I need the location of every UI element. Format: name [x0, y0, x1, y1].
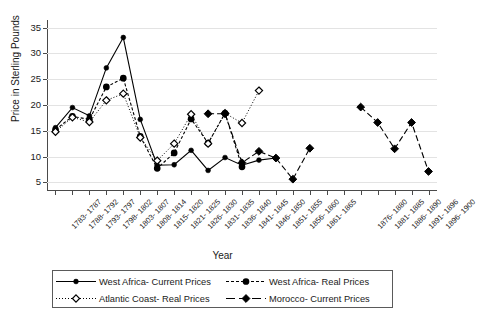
y-tick-labels: 5101520253035	[13, 0, 41, 315]
gridline	[47, 28, 437, 29]
y-tick-mark	[43, 79, 47, 80]
gridline	[47, 157, 437, 158]
x-tick-mark	[106, 191, 107, 195]
legend-item-2[interactable]: West Africa- Real Prices	[223, 273, 393, 290]
x-tick-mark	[259, 191, 260, 195]
legend-item-4[interactable]: Morocco- Current Prices	[223, 290, 393, 307]
y-tick-label: 10	[19, 152, 41, 162]
y-tick-mark	[43, 53, 47, 54]
y-tick-label: 20	[19, 100, 41, 110]
x-tick-mark	[395, 191, 396, 195]
legend-item-3[interactable]: Atlantic Coast- Real Prices	[53, 290, 223, 307]
x-tick-mark	[123, 191, 124, 195]
x-axis-title: Year	[0, 250, 445, 261]
legend-item-1[interactable]: West Africa- Current Prices	[53, 273, 223, 290]
y-tick-label: 35	[19, 23, 41, 33]
plot-area	[47, 20, 437, 190]
x-tick-mark	[72, 191, 73, 195]
x-tick-mark	[327, 191, 328, 195]
gridline	[47, 79, 437, 80]
legend-row: West Africa- Current PricesWest Africa- …	[53, 273, 394, 290]
legend-label: West Africa- Current Prices	[99, 277, 211, 287]
legend-line-icon	[223, 273, 269, 290]
y-tick-mark	[43, 157, 47, 158]
x-tick-mark	[174, 191, 175, 195]
y-tick-label: 5	[19, 177, 41, 187]
x-tick-mark	[310, 191, 311, 195]
y-tick-label: 15	[19, 126, 41, 136]
x-tick-mark	[89, 191, 90, 195]
legend-symbol	[223, 290, 269, 307]
legend-line-icon	[53, 273, 99, 290]
x-tick-mark	[242, 191, 243, 195]
legend-label: West Africa- Real Prices	[269, 277, 369, 287]
x-tick-mark	[378, 191, 379, 195]
legend-symbol	[223, 273, 269, 290]
x-tick-mark	[429, 191, 430, 195]
gridline	[47, 105, 437, 106]
legend-line-icon	[223, 290, 269, 307]
x-tick-mark	[208, 191, 209, 195]
y-tick-label: 30	[19, 48, 41, 58]
legend-symbol	[53, 290, 99, 307]
x-tick-mark	[191, 191, 192, 195]
y-tick-mark	[43, 105, 47, 106]
y-tick-mark	[43, 28, 47, 29]
gridline	[47, 53, 437, 54]
legend-label: Morocco- Current Prices	[269, 294, 370, 304]
legend-row: Atlantic Coast- Real PricesMorocco- Curr…	[53, 290, 394, 307]
y-tick-mark	[43, 182, 47, 183]
gridline	[47, 182, 437, 183]
legend-line-icon	[53, 290, 99, 307]
x-tick-mark	[225, 191, 226, 195]
chart-legend: West Africa- Current PricesWest Africa- …	[52, 270, 393, 308]
x-tick-mark	[412, 191, 413, 195]
x-tick-mark	[344, 191, 345, 195]
x-tick-mark	[361, 191, 362, 195]
legend-symbol	[53, 273, 99, 290]
y-tick-mark	[43, 131, 47, 132]
gridline	[47, 131, 437, 132]
x-tick-mark	[140, 191, 141, 195]
x-tick-mark	[55, 191, 56, 195]
legend-label: Atlantic Coast- Real Prices	[99, 294, 210, 304]
x-tick-mark	[293, 191, 294, 195]
x-tick-mark	[276, 191, 277, 195]
y-tick-label: 25	[19, 74, 41, 84]
x-tick-mark	[157, 191, 158, 195]
